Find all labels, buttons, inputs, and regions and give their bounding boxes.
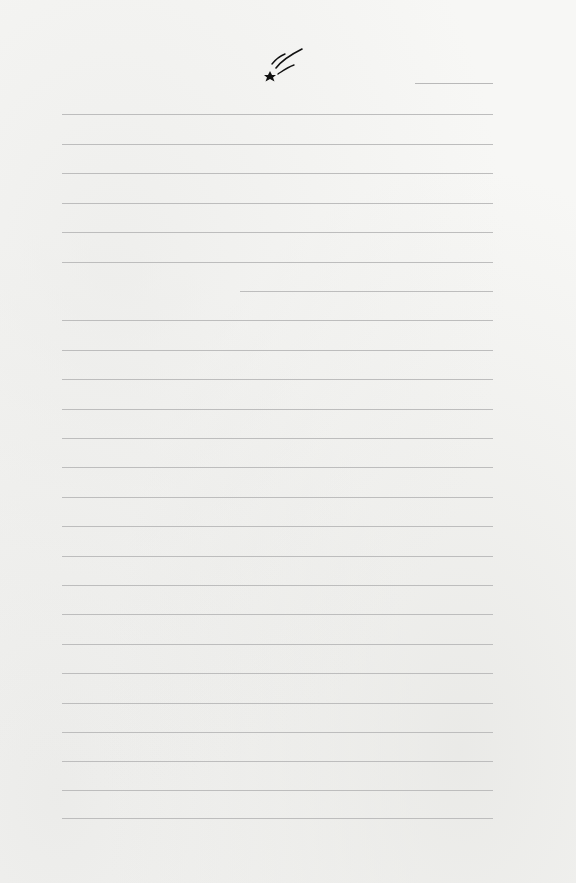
ruled-line [62, 173, 493, 174]
ruled-line [62, 114, 493, 115]
ruled-line [62, 262, 493, 263]
ruled-line [62, 761, 493, 762]
ruled-line [62, 732, 493, 733]
ruled-line [62, 203, 493, 204]
ruled-line [62, 703, 493, 704]
ruled-line [62, 438, 493, 439]
ruled-line [62, 379, 493, 380]
ruled-line [240, 291, 493, 292]
ruled-line [62, 556, 493, 557]
ruled-line [62, 818, 493, 819]
shooting-star-icon [258, 46, 308, 86]
ruled-line [62, 585, 493, 586]
ruled-line [62, 320, 493, 321]
ruled-line [62, 673, 493, 674]
ruled-line [62, 144, 493, 145]
lined-paper [0, 0, 576, 883]
ruled-line [62, 644, 493, 645]
ruled-line [62, 614, 493, 615]
ruled-line [62, 526, 493, 527]
ruled-line [62, 409, 493, 410]
ruled-line [62, 790, 493, 791]
ruled-line [62, 467, 493, 468]
ruled-line [62, 350, 493, 351]
ruled-line [62, 232, 493, 233]
ruled-line [62, 497, 493, 498]
date-line [415, 83, 493, 84]
